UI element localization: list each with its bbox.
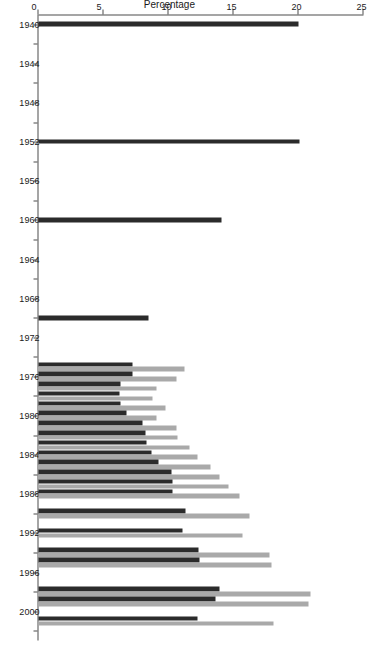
- year-axis-tick: [33, 630, 37, 631]
- bar-light[interactable]: [38, 376, 176, 381]
- year-axis-tick-label: 1996: [19, 567, 39, 577]
- bar-light[interactable]: [38, 484, 228, 489]
- bar-dark[interactable]: [38, 371, 132, 376]
- plot-area: 2520151050Percentage19401944194819521956…: [0, 0, 371, 653]
- bar-dark[interactable]: [38, 420, 142, 425]
- bar-light[interactable]: [38, 366, 184, 371]
- year-axis-tick-label: 1972: [19, 332, 39, 342]
- value-axis-line: [38, 14, 363, 15]
- year-axis-tick: [33, 43, 37, 44]
- year-axis-tick-label: 1944: [19, 58, 39, 68]
- bar-light[interactable]: [38, 435, 177, 440]
- bar-dark[interactable]: [38, 391, 119, 396]
- year-axis-tick: [33, 356, 37, 357]
- value-axis-tick: [102, 9, 103, 14]
- year-axis-tick-label: 1940: [19, 19, 39, 29]
- bar-dark[interactable]: [38, 440, 146, 445]
- bar-dark[interactable]: [38, 362, 132, 367]
- year-axis-tick-label: 1964: [19, 254, 39, 264]
- bar-dark[interactable]: [38, 21, 298, 26]
- bar-light[interactable]: [38, 454, 197, 459]
- bar-dark[interactable]: [38, 528, 182, 533]
- chart-figure: 2520151050Percentage19401944194819521956…: [0, 0, 371, 653]
- year-axis-tick-label: 1968: [19, 293, 39, 303]
- bar-dark[interactable]: [38, 479, 172, 484]
- bar-dark[interactable]: [38, 616, 197, 621]
- bar-dark[interactable]: [38, 596, 215, 601]
- bar-dark[interactable]: [38, 410, 126, 415]
- bar-light[interactable]: [38, 386, 156, 391]
- bar-dark[interactable]: [38, 217, 221, 222]
- bar-dark[interactable]: [38, 315, 149, 320]
- bar-dark[interactable]: [38, 557, 199, 562]
- bar-dark[interactable]: [38, 508, 185, 513]
- bar-light[interactable]: [38, 415, 156, 420]
- bar-dark[interactable]: [38, 381, 120, 386]
- year-axis-tick: [33, 395, 37, 396]
- year-axis-tick-label: 2000: [19, 606, 39, 616]
- bar-light[interactable]: [38, 425, 176, 430]
- year-axis-tick: [33, 513, 37, 514]
- bar-light[interactable]: [38, 405, 165, 410]
- bar-light[interactable]: [38, 493, 240, 498]
- bar-light[interactable]: [38, 562, 271, 567]
- bar-dark[interactable]: [38, 489, 172, 494]
- year-axis-tick-label: 1960: [19, 214, 39, 224]
- year-axis-tick-label: 1976: [19, 371, 39, 381]
- bar-dark[interactable]: [38, 469, 171, 474]
- year-axis-tick: [33, 200, 37, 201]
- year-axis-tick-label: 1984: [19, 449, 39, 459]
- year-axis-tick: [33, 278, 37, 279]
- bar-dark[interactable]: [38, 547, 198, 552]
- bar-light[interactable]: [38, 445, 189, 450]
- bar-dark[interactable]: [38, 459, 158, 464]
- year-axis-tick: [33, 474, 37, 475]
- year-axis-line: [37, 14, 38, 640]
- rotated-figure-group: 2520151050Percentage19401944194819521956…: [0, 0, 371, 653]
- bar-light[interactable]: [38, 591, 310, 596]
- bar-dark[interactable]: [38, 139, 299, 144]
- year-axis-tick-label: 1992: [19, 527, 39, 537]
- year-axis-tick: [33, 591, 37, 592]
- year-axis-tick: [33, 317, 37, 318]
- bar-dark[interactable]: [38, 401, 120, 406]
- year-axis-tick: [33, 161, 37, 162]
- value-axis-tick: [37, 9, 38, 14]
- year-axis-tick: [33, 82, 37, 83]
- year-axis-tick: [33, 552, 37, 553]
- bar-light[interactable]: [38, 464, 210, 469]
- bar-light[interactable]: [38, 513, 249, 518]
- value-axis-title: Percentage: [144, 0, 195, 10]
- bar-light[interactable]: [38, 552, 269, 557]
- bar-light[interactable]: [38, 601, 308, 606]
- year-axis-tick: [33, 122, 37, 123]
- year-axis-tick-label: 1956: [19, 175, 39, 185]
- year-axis-tick-label: 1980: [19, 410, 39, 420]
- bar-light[interactable]: [38, 533, 242, 538]
- year-axis-tick-label: 1948: [19, 97, 39, 107]
- year-axis-tick: [33, 239, 37, 240]
- bar-dark[interactable]: [38, 586, 219, 591]
- bar-light[interactable]: [38, 474, 219, 479]
- bar-light[interactable]: [38, 396, 152, 401]
- year-axis-tick-label: 1988: [19, 488, 39, 498]
- year-axis-tick: [33, 435, 37, 436]
- year-axis-tick-label: 1952: [19, 136, 39, 146]
- bar-dark[interactable]: [38, 430, 145, 435]
- bar-light[interactable]: [38, 621, 273, 626]
- bar-dark[interactable]: [38, 450, 151, 455]
